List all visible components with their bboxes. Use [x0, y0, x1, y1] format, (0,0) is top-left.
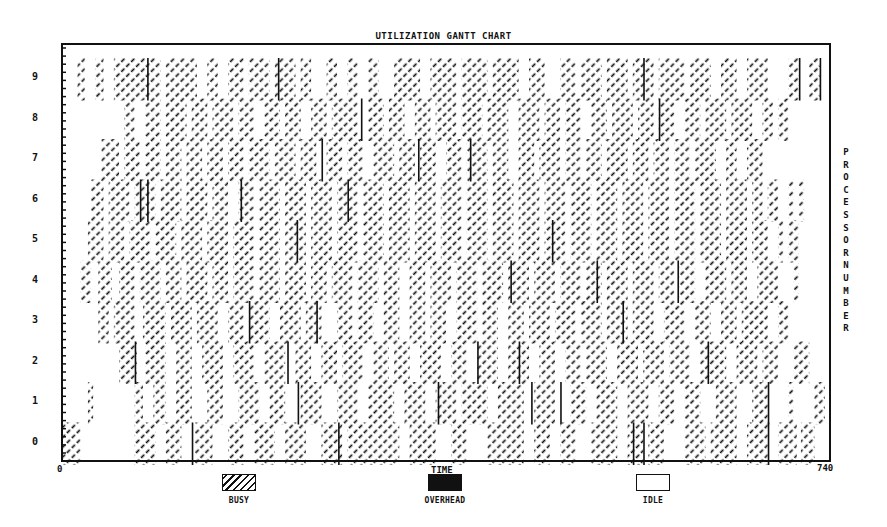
busy-segment	[654, 139, 670, 182]
overhead-mark	[799, 58, 801, 101]
busy-segment	[420, 139, 436, 182]
busy-segment	[788, 58, 798, 101]
busy-segment	[690, 58, 711, 101]
busy-segment	[705, 99, 726, 142]
overhead-mark	[708, 342, 710, 385]
overhead-mark	[297, 220, 299, 263]
busy-segment	[565, 139, 581, 182]
busy-segment	[143, 301, 166, 344]
busy-segment	[285, 220, 306, 263]
busy-segment	[581, 301, 602, 344]
busy-segment	[596, 180, 617, 223]
busy-segment	[529, 58, 545, 101]
busy-segment	[534, 382, 555, 425]
busy-segment	[711, 423, 737, 466]
busy-segment	[176, 342, 192, 385]
busy-segment	[363, 180, 384, 223]
busy-segment	[384, 301, 400, 344]
busy-segment	[135, 382, 143, 425]
busy-segment	[363, 220, 384, 263]
busy-segment	[674, 180, 695, 223]
busy-segment	[617, 342, 638, 385]
busy-segment	[88, 382, 93, 425]
busy-segment	[809, 58, 819, 101]
busy-segment	[275, 139, 296, 182]
busy-segment	[493, 58, 519, 101]
overhead-mark	[643, 58, 645, 101]
busy-segment	[545, 220, 566, 263]
busy-segment	[534, 423, 550, 466]
y-tick-label: 3	[28, 314, 42, 325]
busy-segment	[264, 99, 280, 142]
busy-segment	[389, 99, 405, 142]
busy-segment	[171, 301, 192, 344]
busy-segment	[586, 261, 602, 304]
busy-segment	[801, 423, 814, 466]
busy-segment	[197, 301, 218, 344]
overhead-mark	[249, 301, 251, 344]
busy-segment	[519, 99, 540, 142]
busy-segment	[368, 99, 384, 142]
busy-segment	[212, 180, 228, 223]
busy-segment	[737, 342, 758, 385]
busy-segment	[337, 220, 358, 263]
busy-segment	[145, 99, 161, 142]
overhead-mark	[140, 180, 142, 223]
busy-segment	[571, 180, 592, 223]
overhead-swatch	[428, 474, 462, 491]
busy-segment	[659, 382, 675, 425]
busy-segment	[410, 261, 426, 304]
busy-segment	[124, 139, 140, 182]
x-axis-end-label: 740	[817, 463, 833, 473]
busy-segment	[342, 342, 363, 385]
busy-segment	[700, 220, 721, 263]
busy-segment	[633, 261, 654, 304]
busy-segment	[633, 139, 649, 182]
busy-segment	[731, 99, 752, 142]
busy-segment	[109, 220, 125, 263]
busy-segment	[155, 220, 176, 263]
overhead-mark	[596, 261, 598, 304]
busy-segment	[591, 99, 607, 142]
busy-segment	[358, 261, 379, 304]
busy-segment	[332, 261, 353, 304]
busy-segment	[368, 58, 378, 101]
busy-segment	[648, 180, 669, 223]
busy-segment	[228, 423, 244, 466]
busy-segment	[643, 342, 664, 385]
busy-segment	[488, 99, 509, 142]
busy-segment	[373, 342, 389, 385]
busy-segment	[763, 342, 779, 385]
busy-segment	[659, 261, 675, 304]
y-axis-title: PROCESSOR NUMBER	[841, 146, 851, 335]
busy-segment	[228, 139, 244, 182]
busy-segment	[306, 301, 322, 344]
busy-segment	[685, 423, 706, 466]
overhead-mark	[298, 382, 300, 425]
busy-segment	[545, 99, 561, 142]
busy-segment	[752, 382, 768, 425]
busy-segment	[285, 180, 306, 223]
busy-segment	[249, 58, 270, 101]
busy-segment	[560, 423, 576, 466]
y-tick-label: 4	[28, 274, 42, 285]
busy-segment	[135, 423, 156, 466]
busy-segment	[488, 423, 524, 466]
busy-segment	[399, 139, 415, 182]
legend-busy-label: BUSY	[214, 496, 264, 505]
busy-segment	[296, 342, 312, 385]
busy-segment	[436, 99, 457, 142]
busy-segment	[680, 261, 696, 304]
busy-segment	[301, 58, 311, 101]
busy-segment	[129, 220, 150, 263]
busy-segment	[332, 99, 358, 142]
busy-segment	[430, 261, 451, 304]
busy-segment	[607, 261, 628, 304]
overhead-mark	[531, 382, 533, 425]
busy-segment	[633, 301, 654, 344]
busy-segment	[249, 301, 270, 344]
busy-segment	[648, 220, 669, 263]
busy-segment	[726, 180, 747, 223]
busy-segment	[415, 180, 436, 223]
busy-segment	[659, 58, 685, 101]
